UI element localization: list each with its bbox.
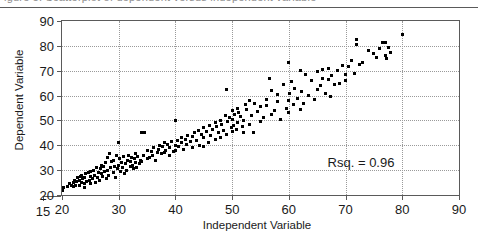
scatter-point — [384, 41, 387, 44]
scatter-point — [62, 186, 65, 189]
scatter-point — [316, 70, 319, 73]
scatter-point — [233, 113, 236, 116]
scatter-point — [287, 99, 290, 102]
y-axis-tick-label-80: 80 — [40, 39, 54, 52]
scatter-point — [168, 146, 171, 149]
scatter-point — [174, 119, 177, 122]
scatter-point — [241, 125, 244, 128]
scatter-point — [184, 138, 187, 141]
scatter-point — [112, 159, 115, 162]
scatter-point — [327, 78, 330, 81]
scatter-point — [195, 139, 198, 142]
scatter-point — [244, 103, 247, 106]
scatter-point — [304, 73, 307, 76]
clipped-caption-strip: igure 5. Scatterplot of dependent versus… — [0, 0, 478, 7]
scatter-point — [231, 130, 234, 133]
y-axis-tick-label-20: 20 — [40, 189, 54, 202]
scatter-point — [279, 118, 282, 121]
scatter-point — [123, 172, 126, 175]
scatter-point — [168, 154, 171, 157]
scatter-point — [136, 155, 139, 158]
scatter-point — [239, 115, 242, 118]
scatter-point — [344, 79, 347, 82]
scatter-point — [341, 64, 344, 67]
scatter-point — [265, 104, 268, 107]
scatter-point — [217, 131, 220, 134]
scatter-point — [378, 47, 381, 50]
scatter-point — [248, 123, 251, 126]
scatter-point — [321, 68, 324, 71]
scatter-point — [361, 61, 364, 64]
scatter-point — [367, 49, 370, 52]
scatter-point — [83, 186, 86, 189]
scatter-point — [135, 166, 138, 169]
scatter-point — [385, 57, 388, 60]
scatter-point — [124, 162, 127, 165]
y-axis-tick-label-60: 60 — [40, 89, 54, 102]
scatter-point — [330, 74, 333, 77]
scatter-point — [296, 97, 299, 100]
scatter-point — [166, 143, 169, 146]
scatter-point — [232, 124, 235, 127]
scatter-point — [89, 182, 92, 185]
x-axis-tick-label-50: 50 — [225, 203, 239, 216]
scatter-point — [114, 176, 117, 179]
scatter-point — [338, 82, 341, 85]
scatter-point — [146, 149, 149, 152]
scatter-point — [157, 148, 160, 151]
scatter-point — [220, 123, 223, 126]
scatter-point — [329, 95, 332, 98]
scatter-point — [250, 114, 253, 117]
scatter-point — [150, 150, 153, 153]
scatter-point — [211, 128, 214, 131]
scatter-point — [333, 83, 336, 86]
clipped-caption-text: igure 5. Scatterplot of dependent versus… — [4, 0, 316, 3]
scatter-point — [142, 154, 145, 157]
scatter-point — [299, 108, 302, 111]
scatter-point — [143, 131, 146, 134]
scatter-point — [161, 145, 164, 148]
scatter-point — [202, 136, 205, 139]
scatter-point — [156, 151, 159, 154]
scatter-point — [152, 146, 155, 149]
x-axis-tick-90 — [459, 195, 460, 200]
scatter-point — [324, 92, 327, 95]
scatter-point — [177, 145, 180, 148]
scatter-point — [292, 103, 295, 106]
scatter-points — [62, 21, 459, 195]
scatter-point — [119, 170, 122, 173]
y-axis-tick-label-90: 90 — [40, 15, 54, 28]
x-axis-tick-label-15: 15 — [36, 204, 50, 219]
x-axis-tick-60 — [289, 195, 290, 200]
scatter-point — [209, 134, 212, 137]
scatter-point — [259, 120, 262, 123]
scatter-point — [236, 121, 239, 124]
x-axis-tick-20 — [62, 195, 63, 200]
scatter-point — [122, 155, 125, 158]
y-axis-title: Dependent Variable — [13, 15, 25, 185]
scatter-point — [98, 179, 101, 182]
scatter-point — [140, 160, 143, 163]
y-axis-tick-label-30: 30 — [40, 164, 54, 177]
scatter-figure: igure 5. Scatterplot of dependent versus… — [0, 0, 478, 239]
rsq-annotation: Rsq. = 0.96 — [328, 155, 395, 170]
scatter-point — [219, 119, 222, 122]
scatter-point — [252, 131, 255, 134]
scatter-point — [125, 169, 128, 172]
scatter-point — [287, 111, 290, 114]
scatter-point — [273, 109, 276, 112]
scatter-point — [288, 92, 291, 95]
scatter-point — [180, 141, 183, 144]
scatter-point — [327, 67, 330, 70]
scatter-point — [293, 87, 296, 90]
scatter-point — [355, 38, 358, 41]
scatter-point — [200, 133, 203, 136]
scatter-point — [347, 65, 350, 68]
x-axis-tick-label-70: 70 — [338, 203, 352, 216]
scatter-point — [316, 88, 319, 91]
scatter-point — [321, 77, 324, 80]
scatter-point — [285, 107, 288, 110]
scatter-point — [310, 79, 313, 82]
scatter-point — [237, 111, 240, 114]
scatter-point — [117, 141, 120, 144]
